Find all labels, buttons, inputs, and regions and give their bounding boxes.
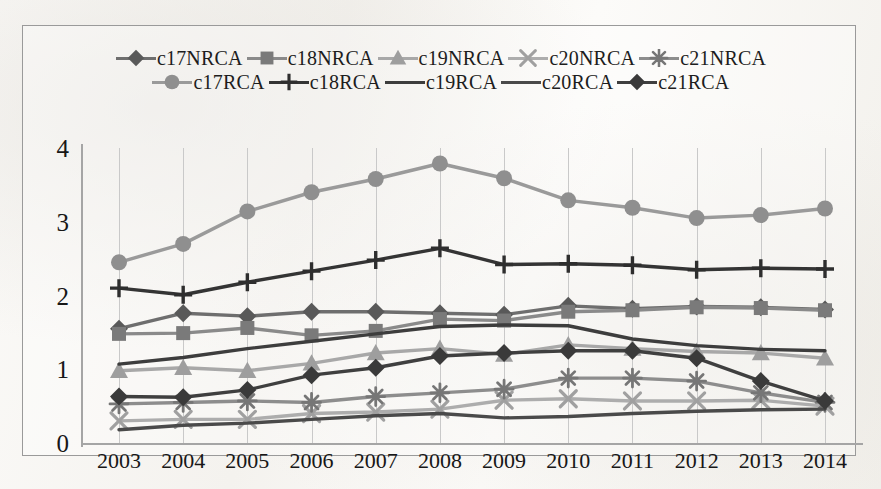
legend-item-c20NRCA[interactable]: c20NRCA [508, 47, 639, 70]
plot-area: 01234 2003200420052006200720082009201020… [83, 148, 861, 443]
x-tick-label: 2005 [225, 450, 269, 472]
x-tick-label: 2004 [161, 450, 205, 472]
legend-label-c18RCA: c18RCA [309, 71, 385, 94]
legend-swatch-c20RCA [501, 73, 541, 91]
y-tick-label: 2 [57, 283, 70, 308]
x-tick-label: 2007 [354, 450, 398, 472]
data-point-marker-square [240, 321, 254, 335]
legend-swatch-c19NRCA [378, 49, 418, 67]
data-point-marker-circle [817, 200, 833, 216]
data-point-marker-diamond [623, 342, 641, 360]
data-point-marker-plus [238, 273, 256, 291]
x-tick-label: 2008 [418, 450, 462, 472]
legend-item-c19RCA[interactable]: c19RCA [385, 71, 501, 94]
series-line [119, 248, 825, 294]
data-point-marker-plus [495, 256, 513, 274]
data-point-marker-asterisk [367, 388, 385, 406]
legend-label-c17NRCA: c17NRCA [156, 47, 247, 70]
x-tick-label: 2006 [290, 450, 334, 472]
x-tick-label: 2013 [739, 450, 783, 472]
data-point-marker-asterisk [303, 393, 321, 411]
data-point-marker-square [176, 326, 190, 340]
x-tick-label: 2012 [675, 450, 719, 472]
legend-swatch-c20NRCA [508, 49, 548, 67]
legend-row-nrca: c17NRCAc18NRCAc19NRCAc20NRCAc21NRCA [83, 46, 803, 70]
data-point-marker-plus [688, 261, 706, 279]
legend-item-c18NRCA[interactable]: c18NRCA [247, 47, 378, 70]
data-point-marker-plus [303, 262, 321, 280]
data-point-marker-diamond [128, 50, 145, 67]
legend-label-c20NRCA: c20NRCA [548, 47, 639, 70]
x-tick-label: 2003 [97, 450, 141, 472]
data-point-marker-square [260, 52, 273, 65]
legend-item-c20RCA[interactable]: c20RCA [501, 71, 617, 94]
legend-marker-plus-icon [269, 73, 309, 91]
legend-label-c19RCA: c19RCA [425, 71, 501, 94]
legend-line [385, 81, 425, 84]
data-point-marker-asterisk [431, 384, 449, 402]
data-point-marker-asterisk [688, 372, 706, 390]
legend-label-c18NRCA: c18NRCA [287, 47, 378, 70]
legend-marker-diamond-icon [116, 49, 156, 67]
legend-item-c18RCA[interactable]: c18RCA [269, 71, 385, 94]
legend-label-c19NRCA: c19NRCA [418, 47, 509, 70]
series-c18RCA [110, 239, 834, 303]
legend-item-c19NRCA[interactable]: c19NRCA [378, 47, 509, 70]
legend-item-c17NRCA[interactable]: c17NRCA [116, 47, 247, 70]
data-point-marker-circle [111, 254, 127, 270]
legend-label-c21NRCA: c21NRCA [679, 47, 770, 70]
legend-label-c20RCA: c20RCA [541, 71, 617, 94]
data-point-marker-circle [496, 170, 512, 186]
legend-swatch-c17NRCA [116, 49, 156, 67]
data-point-marker-plus [110, 279, 128, 297]
data-point-marker-asterisk [623, 369, 641, 387]
legend-item-c17RCA[interactable]: c17RCA [152, 71, 268, 94]
data-point-marker-circle [304, 184, 320, 200]
legend-line [501, 81, 541, 84]
series-layer [83, 148, 861, 443]
data-point-marker-plus [559, 255, 577, 273]
data-point-marker-triangle [389, 50, 406, 65]
legend-marker-asterisk-icon [639, 49, 679, 67]
data-point-marker-circle [368, 171, 384, 187]
data-point-marker-circle [165, 75, 180, 90]
data-point-marker-circle [689, 210, 705, 226]
data-point-marker-plus [280, 74, 297, 91]
legend-swatch-c19RCA [385, 73, 425, 91]
data-point-marker-diamond [367, 303, 385, 321]
data-point-marker-square [561, 305, 575, 319]
legend-row-rca: c17RCAc18RCAc19RCAc20RCAc21RCA [83, 70, 803, 94]
data-point-marker-plus [623, 256, 641, 274]
legend-swatch-c21NRCA [639, 49, 679, 67]
x-axis-line [81, 443, 863, 445]
series-c19NRCA [110, 336, 834, 378]
legend-marker-square-icon [247, 49, 287, 67]
data-point-marker-square [818, 303, 832, 317]
x-tick-label: 2014 [803, 450, 847, 472]
data-point-marker-circle [175, 236, 191, 252]
legend-item-c21NRCA[interactable]: c21NRCA [639, 47, 770, 70]
data-point-marker-asterisk [651, 50, 668, 67]
series-line [119, 163, 825, 262]
data-point-marker-diamond [174, 304, 192, 322]
legend-label-c21RCA: c21RCA [657, 71, 733, 94]
data-point-marker-square [433, 312, 447, 326]
y-tick-label: 3 [57, 209, 70, 234]
data-point-marker-plus [367, 251, 385, 269]
data-point-marker-plus [752, 259, 770, 277]
data-point-marker-square [112, 327, 126, 341]
data-point-marker-square [690, 300, 704, 314]
chart-legend: c17NRCAc18NRCAc19NRCAc20NRCAc21NRCA c17R… [83, 46, 803, 94]
legend-swatch-c18NRCA [247, 49, 287, 67]
x-tick-label: 2010 [546, 450, 590, 472]
data-point-marker-asterisk [559, 369, 577, 387]
legend-item-c21RCA[interactable]: c21RCA [617, 71, 733, 94]
legend-marker-x-icon [508, 49, 548, 67]
data-point-marker-x [521, 51, 536, 66]
legend-marker-circle-icon [152, 73, 192, 91]
data-point-marker-circle [432, 155, 448, 171]
data-point-marker-square [754, 301, 768, 315]
legend-label-c17RCA: c17RCA [192, 71, 268, 94]
x-tick-label: 2009 [482, 450, 526, 472]
legend-swatch-c18RCA [269, 73, 309, 91]
